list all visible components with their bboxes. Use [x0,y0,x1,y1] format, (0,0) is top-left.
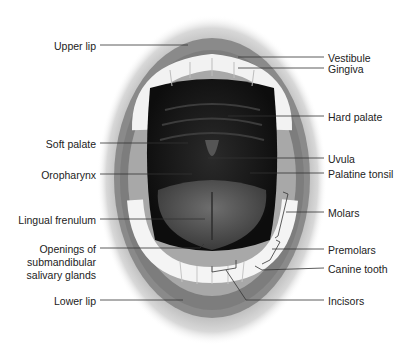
label-openings-line1: Openings of [0,243,96,255]
oral-cavity-diagram: Upper lip Soft palate Oropharynx Lingual… [0,0,410,345]
label-oropharynx: Oropharynx [10,169,96,181]
label-lingual-frenulum: Lingual frenulum [0,214,96,226]
label-openings-line2: submandibular [0,256,96,268]
label-soft-palate: Soft palate [10,138,96,150]
label-openings-line3: salivary glands [0,269,96,281]
label-canine-tooth: Canine tooth [328,263,388,275]
label-uvula: Uvula [328,153,355,165]
label-hard-palate: Hard palate [328,111,382,123]
label-lower-lip: Lower lip [10,295,96,307]
label-palatine-tonsil: Palatine tonsil [328,168,393,180]
label-incisors: Incisors [328,295,364,307]
label-upper-lip: Upper lip [10,40,96,52]
label-gingiva: Gingiva [328,63,364,75]
label-molars: Molars [328,207,360,219]
label-premolars: Premolars [328,244,376,256]
